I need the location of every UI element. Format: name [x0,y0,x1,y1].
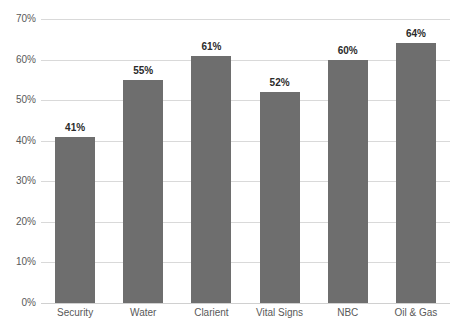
bar-value-label: 60% [338,45,358,56]
bar-group: 60% [314,19,382,303]
bar-value-label: 61% [201,41,221,52]
x-axis-tick-label: Security [41,306,109,319]
x-axis-tick-label: Vital Signs [246,306,314,319]
y-axis-tick-label: 50% [2,95,36,105]
y-axis-tick-label: 30% [2,176,36,186]
bar-value-label: 64% [406,28,426,39]
bar-value-label: 52% [270,77,290,88]
bar[interactable] [396,43,436,303]
x-axis-tick-label: NBC [314,306,382,319]
bar-group: 52% [246,19,314,303]
gridline [41,303,450,304]
y-axis: 0%10%20%30%40%50%60%70% [0,19,36,303]
bar[interactable] [328,60,368,303]
plot-area: 41%55%61%52%60%64% [41,19,450,303]
bar-chart: 0%10%20%30%40%50%60%70% 41%55%61%52%60%6… [0,0,456,331]
y-axis-tick-label: 10% [2,257,36,267]
y-axis-tick-label: 40% [2,136,36,146]
y-axis-tick-label: 0% [2,298,36,308]
y-axis-tick-label: 70% [2,14,36,24]
x-axis: SecurityWaterClarientVital SignsNBCOil &… [41,306,450,326]
bar-group: 55% [109,19,177,303]
bar-group: 41% [41,19,109,303]
x-axis-tick-label: Oil & Gas [382,306,450,319]
y-axis-tick-label: 60% [2,55,36,65]
bar[interactable] [123,80,163,303]
bar-value-label: 55% [133,65,153,76]
bar[interactable] [55,137,95,303]
x-axis-tick-label: Clarient [177,306,245,319]
chart-title [0,0,456,1]
bar-value-label: 41% [65,122,85,133]
x-axis-tick-label: Water [109,306,177,319]
y-axis-tick-label: 20% [2,217,36,227]
bar-group: 64% [382,19,450,303]
bar[interactable] [260,92,300,303]
bar-group: 61% [177,19,245,303]
bar[interactable] [191,56,231,303]
